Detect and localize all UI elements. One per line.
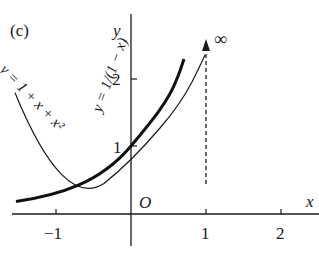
plot-canvas <box>0 0 319 256</box>
figure-panel-c: (c) y x O −1 1 2 1 2 ∞ y = 1/(1 − x) y =… <box>0 0 319 256</box>
panel-label: (c) <box>10 22 29 39</box>
y-tick-label-1: 1 <box>113 139 122 156</box>
x-tick-label-2: 2 <box>276 225 285 242</box>
x-tick-label-1: 1 <box>201 225 210 242</box>
arrow-head-icon <box>202 39 210 51</box>
x-tick-label-minus1: −1 <box>44 225 62 242</box>
infinity-label: ∞ <box>214 30 227 48</box>
x-axis-label: x <box>306 193 314 210</box>
origin-label: O <box>139 194 151 211</box>
